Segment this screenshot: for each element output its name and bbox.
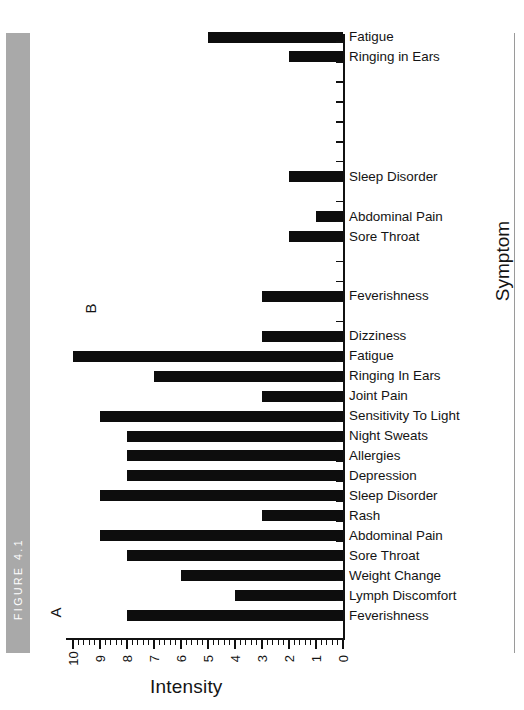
value-tick-label: 9: [93, 647, 108, 671]
category-tick: [336, 141, 343, 143]
category-label: Lymph Discomfort: [349, 589, 456, 603]
category-label: Night Sweats: [349, 429, 428, 443]
category-tick: [336, 400, 343, 402]
value-tick-minor: [186, 640, 187, 645]
category-tick: [336, 620, 343, 622]
value-tick-minor: [202, 640, 203, 645]
category-tick: [336, 261, 343, 263]
category-tick: [336, 181, 343, 183]
value-tick-label: 4: [228, 647, 243, 671]
category-tick: [336, 440, 343, 442]
category-label: Ringing In Ears: [349, 369, 441, 383]
value-tick-minor: [132, 640, 133, 645]
panel-letter-a: A: [47, 607, 64, 617]
category-tick: [336, 41, 343, 43]
value-tick-minor: [218, 640, 219, 645]
bar: [208, 32, 343, 43]
value-tick-minor: [83, 640, 84, 645]
category-label: Dizziness: [349, 329, 406, 343]
value-tick-label: 5: [201, 647, 216, 671]
bar: [127, 610, 343, 621]
value-tick-minor: [224, 640, 225, 645]
bar: [289, 51, 343, 62]
value-tick-label: 3: [255, 647, 270, 671]
y-axis-title: Symptom: [492, 176, 514, 346]
category-label: Fatigue: [349, 349, 394, 363]
bar: [127, 470, 343, 481]
category-tick: [336, 500, 343, 502]
value-tick-label: 7: [147, 647, 162, 671]
value-tick-label: 1: [309, 647, 324, 671]
bar: [127, 450, 343, 461]
bar: [262, 391, 343, 402]
category-tick: [336, 520, 343, 522]
category-label: Feverishness: [349, 289, 429, 303]
category-tick: [336, 281, 343, 283]
value-tick-minor: [148, 640, 149, 645]
value-tick-minor: [240, 640, 241, 645]
value-tick-minor: [299, 640, 300, 645]
category-tick: [336, 560, 343, 562]
category-axis-spine: [343, 34, 345, 639]
category-tick: [336, 540, 343, 542]
bar: [127, 431, 343, 442]
value-tick-label: 6: [174, 647, 189, 671]
value-tick-minor: [251, 640, 252, 645]
value-tick-minor: [294, 640, 295, 645]
category-tick: [336, 221, 343, 223]
category-label: Joint Pain: [349, 389, 408, 403]
value-tick-minor: [143, 640, 144, 645]
category-label: Abdominal Pain: [349, 210, 443, 224]
value-tick-label: 10: [66, 647, 81, 671]
category-tick: [336, 460, 343, 462]
value-tick-label: 8: [120, 647, 135, 671]
bar: [289, 231, 343, 242]
value-tick-minor: [283, 640, 284, 645]
category-label: Feverishness: [349, 609, 429, 623]
category-tick: [336, 201, 343, 203]
bar: [127, 550, 343, 561]
category-label: Fatigue: [349, 30, 394, 44]
category-tick: [336, 61, 343, 63]
bar: [262, 510, 343, 521]
category-label: Allergies: [349, 449, 400, 463]
category-tick: [336, 420, 343, 422]
category-tick: [336, 161, 343, 163]
value-tick-minor: [105, 640, 106, 645]
value-tick-minor: [78, 640, 79, 645]
value-tick-minor: [164, 640, 165, 645]
value-tick-label: 2: [282, 647, 297, 671]
value-tick-minor: [116, 640, 117, 645]
value-tick-minor: [94, 640, 95, 645]
category-tick: [336, 301, 343, 303]
value-tick-minor: [121, 640, 122, 645]
category-label: Rash: [349, 509, 380, 523]
value-tick-minor: [110, 640, 111, 645]
bar: [181, 570, 343, 581]
x-axis-title: Intensity: [150, 676, 223, 698]
category-tick: [336, 360, 343, 362]
bar: [289, 171, 343, 182]
value-tick-minor: [305, 640, 306, 645]
category-label: Weight Change: [349, 569, 441, 583]
bar: [262, 331, 343, 342]
value-tick-minor: [256, 640, 257, 645]
bar: [235, 590, 343, 601]
bar: [100, 530, 343, 541]
category-label: Ringing in Ears: [349, 50, 440, 64]
category-tick: [336, 340, 343, 342]
category-tick: [336, 121, 343, 123]
value-tick-minor: [326, 640, 327, 645]
value-axis-spine: [66, 638, 345, 640]
category-tick: [336, 241, 343, 243]
value-tick-minor: [89, 640, 90, 645]
category-tick: [336, 81, 343, 83]
value-tick-minor: [245, 640, 246, 645]
category-tick: [336, 380, 343, 382]
category-label: Abdominal Pain: [349, 529, 443, 543]
value-tick-minor: [229, 640, 230, 645]
bar: [100, 490, 343, 501]
value-tick-minor: [197, 640, 198, 645]
bar: [154, 371, 343, 382]
value-tick-minor: [191, 640, 192, 645]
